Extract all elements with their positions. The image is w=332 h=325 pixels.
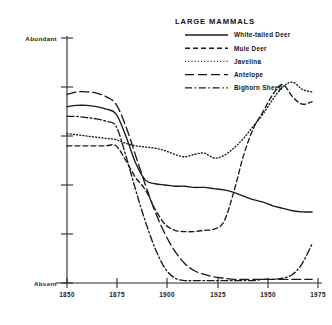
legend-label-javelina: Javelina — [234, 58, 261, 65]
chart-container: Abundant Absent 1850 1875 1900 1925 1950… — [0, 0, 332, 325]
legend-title: LARGE MAMMALS — [175, 17, 255, 26]
series-line-white-tailed-deer — [67, 105, 312, 212]
large-mammals-line-chart: Abundant Absent 1850 1875 1900 1925 1950… — [0, 0, 332, 325]
legend-label-antelope: Antelope — [234, 71, 264, 79]
x-tick-label-1875: 1875 — [109, 291, 125, 298]
series-line-bighorn-sheep — [67, 116, 312, 280]
x-tick-label-1850: 1850 — [59, 291, 75, 298]
series-layer — [67, 82, 312, 281]
y-axis-bottom-label: Absent — [34, 280, 57, 287]
x-tick-label-1900: 1900 — [159, 291, 175, 298]
chart-legend: LARGE MAMMALS White-tailed DeerMule Deer… — [175, 17, 291, 92]
legend-label-mule-deer: Mule Deer — [234, 45, 267, 52]
x-tick-label-1950: 1950 — [260, 291, 276, 298]
legend-label-white-tailed-deer: White-tailed Deer — [234, 31, 291, 38]
legend-label-bighorn-sheep: Bighorn Sheep — [234, 84, 283, 92]
y-axis-top-label: Abundant — [25, 35, 57, 42]
x-tick-label-1925: 1925 — [210, 291, 226, 298]
x-tick-label-1975: 1975 — [310, 291, 326, 298]
series-line-mule-deer — [67, 85, 312, 232]
